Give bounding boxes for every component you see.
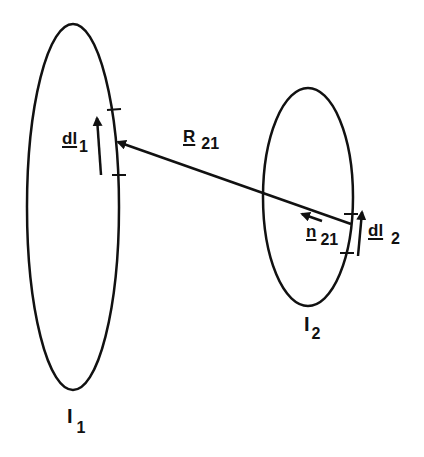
dl2-label: dl2 (368, 221, 400, 241)
n21-label: n21 (306, 222, 338, 242)
loop-2-current-label: I2 (304, 313, 320, 336)
n21-arrow (302, 214, 322, 221)
dl1-label: dl1 (62, 129, 88, 149)
dl1-arrow (97, 118, 101, 175)
loop-1-current-label: I1 (67, 405, 85, 428)
mutual-inductance-diagram (0, 0, 424, 457)
r21-arrow (118, 142, 351, 224)
dl2-arrow (358, 212, 362, 256)
loop-1-ellipse (27, 24, 119, 390)
r21-label: R21 (183, 127, 219, 147)
loop-1-tick-top (107, 109, 121, 110)
